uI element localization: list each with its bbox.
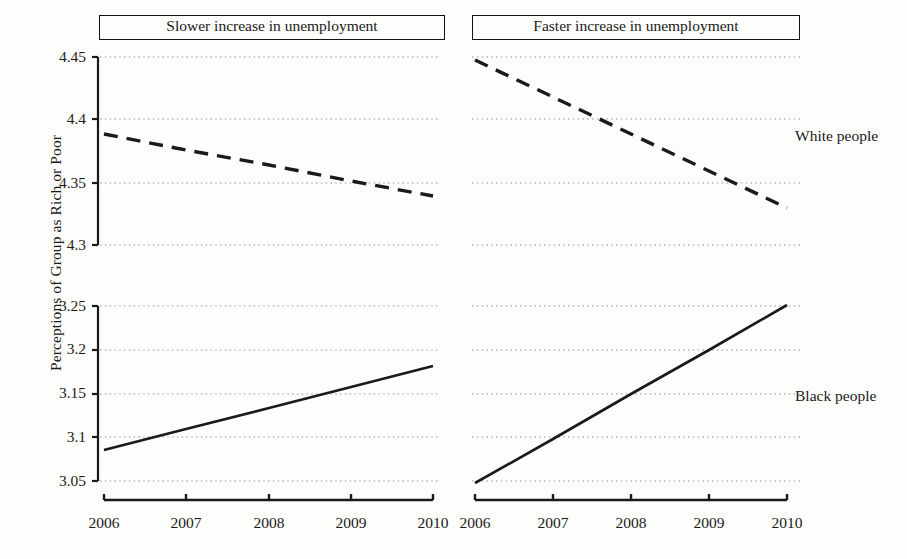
panel-top-right — [472, 57, 800, 245]
series-line-black-faster — [475, 305, 787, 483]
panel-bottom-left — [92, 306, 438, 500]
panel-top-left — [92, 57, 438, 245]
plot-canvas — [0, 0, 907, 559]
figure: Perceptions of Group as Rich or Poor Slo… — [0, 0, 907, 559]
series-line-white-faster — [475, 60, 787, 208]
series-line-white-slower — [104, 134, 433, 196]
panel-bottom-right — [472, 305, 800, 500]
